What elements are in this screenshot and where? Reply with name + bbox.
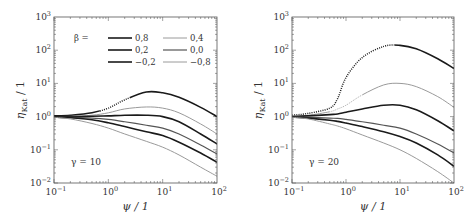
- legend-label: 0,0: [190, 45, 204, 55]
- legend-title: β =: [74, 33, 89, 43]
- y-tick-label: 103: [35, 10, 51, 22]
- x-axis-label: ψ / 1: [360, 200, 386, 213]
- x-axis-label: ψ / 1: [122, 200, 148, 213]
- series-line-beta--0.8: [54, 117, 217, 176]
- legend: β =0,80,40,20,0−0,2−0,8: [74, 33, 211, 67]
- x-tick-label: 10−1: [45, 185, 66, 197]
- y-axis-label: ηKat / 1: [252, 81, 267, 119]
- x-tick-label: 100: [340, 185, 356, 197]
- x-tick-label: 101: [157, 185, 173, 197]
- y-tick-label: 100: [273, 110, 289, 122]
- series-line-beta-0.8: [54, 92, 217, 117]
- y-tick-label: 10−1: [268, 143, 289, 155]
- series-line-dotted-beta-0.4: [292, 83, 454, 116]
- series-line-beta-0.0: [292, 117, 454, 153]
- y-tick-label: 101: [35, 76, 51, 88]
- legend-label: −0,2: [135, 57, 156, 67]
- chart-plot-gamma-20: 10−110010110210−210−1100101102103ψ / 1ηK…: [237, 0, 474, 219]
- legend-label: 0,2: [135, 45, 149, 55]
- series-line-beta-0.8: [292, 45, 454, 115]
- y-axis-label: ηKat / 1: [14, 81, 29, 119]
- x-tick-label: 100: [103, 185, 119, 197]
- y-tick-label: 10−1: [30, 143, 51, 155]
- series-line-beta-0.4: [292, 83, 454, 116]
- gamma-annotation: γ = 20: [309, 157, 339, 167]
- y-tick-label: 101: [273, 76, 289, 88]
- legend-label: 0,4: [190, 33, 204, 43]
- y-tick-label: 102: [273, 43, 289, 55]
- x-tick-label: 102: [211, 185, 227, 197]
- x-tick-label: 102: [448, 185, 464, 197]
- x-tick-label: 101: [394, 185, 410, 197]
- y-tick-label: 103: [273, 10, 289, 22]
- y-tick-label: 100: [35, 110, 51, 122]
- chart-panel-gamma-10: 10−110010110210−210−1100101102103ψ / 1ηK…: [0, 0, 237, 219]
- x-tick-label: 10−1: [283, 185, 304, 197]
- y-tick-label: 102: [35, 43, 51, 55]
- chart-plot-gamma-10: 10−110010110210−210−1100101102103ψ / 1ηK…: [0, 0, 237, 219]
- gamma-annotation: γ = 10: [71, 157, 101, 167]
- chart-panel-gamma-20: 10−110010110210−210−1100101102103ψ / 1ηK…: [237, 0, 474, 219]
- legend-label: 0,8: [135, 33, 149, 43]
- legend-label: −0,8: [190, 57, 211, 67]
